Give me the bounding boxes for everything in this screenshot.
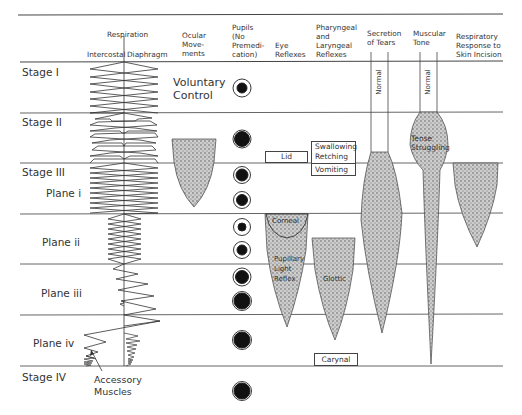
header-muscular-tone: MuscularTone xyxy=(413,29,446,47)
swallowing-retching-box: SwallowingRetching xyxy=(311,141,356,164)
pupil-plane3-b xyxy=(233,292,252,311)
plane-4-label: Plane iv xyxy=(33,337,74,349)
lid-reflex-box: Lid xyxy=(265,151,308,163)
accessory-muscles-label: AccessoryMuscles xyxy=(94,374,142,398)
plane-2-label: Plane ii xyxy=(42,236,80,248)
pupil-stage2 xyxy=(233,130,251,148)
stage-1-label: Stage I xyxy=(22,66,59,78)
header-eye-reflexes: EyeReflexes xyxy=(275,41,306,59)
tears-normal-label: Normal xyxy=(375,67,383,97)
carynal-box: Carynal xyxy=(314,353,358,366)
glottic-reflex-shape xyxy=(312,238,355,340)
ocular-movement-shape xyxy=(172,139,216,207)
pupil-plane2-a xyxy=(234,219,251,236)
header-respiration: Respiration xyxy=(107,30,148,39)
top-rule xyxy=(18,14,503,15)
pupil-stage4 xyxy=(233,382,252,401)
header-respiratory-response: RespiratoryResponse toSkin Incision xyxy=(456,32,502,59)
pupil-stage1 xyxy=(233,79,251,97)
stage-4-label: Stage IV xyxy=(22,371,66,383)
pupil-plane1-b xyxy=(234,192,251,209)
stage-3-label: Stage III xyxy=(22,166,65,178)
tear-secretion-shape xyxy=(361,152,402,333)
header-pharyngeal-laryngeal: PharyngealandLaryngealReflexes xyxy=(316,23,357,59)
vomiting-box: Vomiting xyxy=(311,163,356,176)
corneal-label: Corneal xyxy=(272,216,299,226)
plane-3-label: Plane iii xyxy=(41,287,82,299)
respiration-plane3 xyxy=(113,264,160,326)
header-intercostal: Intercostal xyxy=(87,50,126,59)
header-secretion-of-tears: Secretionof Tears xyxy=(367,29,401,47)
stage-2-label: Stage II xyxy=(22,116,62,128)
tense-struggling-label: TenseStruggling xyxy=(411,134,450,152)
header-diaphragm: Diaphragm xyxy=(127,50,168,59)
pupils xyxy=(233,79,252,401)
pupil-plane1-a xyxy=(234,167,251,184)
respiration-plane4 xyxy=(84,321,160,359)
pupil-plane4 xyxy=(233,331,252,350)
glottic-label: Glottic xyxy=(323,274,346,284)
pupil-plane3-a xyxy=(233,268,251,286)
diaphragm-trace-right xyxy=(124,333,140,366)
accessory-muscle-trace-left xyxy=(84,356,94,366)
pupillary-light-reflex-label: PupillaryLightReflex xyxy=(274,254,304,284)
voluntary-control-label: VoluntaryControl xyxy=(173,76,226,102)
header-pupils: Pupils(NoPremedi-cation) xyxy=(232,23,265,59)
pupil-plane2-b xyxy=(234,242,251,259)
respiratory-response-shape xyxy=(453,163,498,247)
tone-normal-label: Normal xyxy=(424,67,432,97)
plane-1-label: Plane i xyxy=(46,187,81,199)
header-ocular-movements: OcularMove-ments xyxy=(182,31,206,58)
anesthesia-stages-diagram xyxy=(0,0,522,415)
header-rule xyxy=(20,61,503,62)
